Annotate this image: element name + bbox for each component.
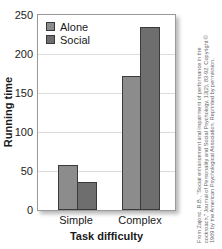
credit-line-1: From Zajonc, R.B., “Social enhancement a… (196, 3, 203, 243)
y-tick-150: 150 (15, 88, 33, 99)
y-tick-100: 100 (15, 127, 33, 138)
plot-area: Alone Social (37, 14, 176, 211)
legend-label-social: Social (60, 34, 90, 46)
bar-complex-alone (122, 76, 141, 210)
x-tick-complex: Complex (110, 214, 170, 226)
x-tick-simple: Simple (46, 214, 106, 226)
legend: Alone Social (46, 20, 90, 46)
legend-item-social: Social (46, 33, 90, 46)
credit-line-2: cockroach,” Journal of Personality and S… (203, 3, 210, 243)
legend-label-alone: Alone (60, 21, 88, 33)
y-tick-0: 0 (27, 205, 33, 216)
y-tick-200: 200 (15, 49, 33, 60)
y-axis-label: Running time (2, 72, 14, 152)
legend-swatch-alone (46, 22, 55, 31)
y-tick-250: 250 (15, 10, 33, 21)
bar-simple-social (77, 182, 97, 210)
source-credit: From Zajonc, R.B., “Social enhancement a… (196, 3, 216, 243)
y-tick-50: 50 (21, 166, 33, 177)
bar-simple-alone (58, 165, 78, 210)
legend-item-alone: Alone (46, 20, 90, 33)
x-axis-label: Task difficulty (37, 230, 176, 242)
bar-complex-social (140, 27, 160, 210)
legend-swatch-social (46, 35, 55, 44)
credit-line-3: 1969 by the American Psychological Assoc… (209, 3, 216, 243)
